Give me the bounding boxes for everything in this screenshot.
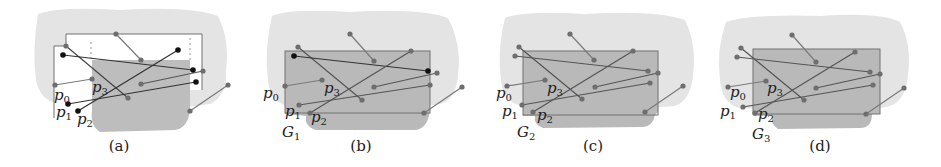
panel-a: p0 p1 p2 p3 (a) [0, 0, 235, 167]
panel-c-diagram: p0 p1 p2 p3 G2 (c) [465, 0, 700, 167]
caption-a: (a) [109, 137, 130, 155]
label-p1: p1 [502, 102, 518, 121]
panel-b-diagram: p0 p1 p2 p3 G1 (b) [230, 0, 465, 167]
label-group: G2 [517, 123, 535, 142]
panel-d-diagram: p0 p1 p2 p3 G3 (d) [700, 0, 941, 167]
panel-c: p0 p1 p2 p3 G2 (c) [465, 0, 700, 167]
panel-b: p0 p1 p2 p3 G1 (b) [230, 0, 465, 167]
caption-c: (c) [583, 137, 603, 155]
caption-d: (d) [809, 137, 830, 155]
label-group: G3 [752, 125, 770, 144]
panel-a-diagram: p0 p1 p2 p3 (a) [0, 0, 235, 167]
caption-b: (b) [350, 137, 371, 155]
label-group: G1 [282, 123, 300, 142]
panel-d: p0 p1 p2 p3 G3 (d) [700, 0, 935, 167]
